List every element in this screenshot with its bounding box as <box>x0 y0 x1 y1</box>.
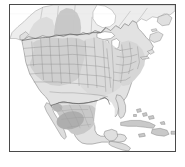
bahamas-island-4 <box>134 115 137 117</box>
map-frame <box>9 4 176 152</box>
map-canvas <box>10 5 175 151</box>
puerto-rico-island <box>171 131 175 134</box>
range-shading-mexico-core-secondary <box>52 104 62 112</box>
distribution-map-figure: North America species distribution map N… <box>0 0 185 167</box>
